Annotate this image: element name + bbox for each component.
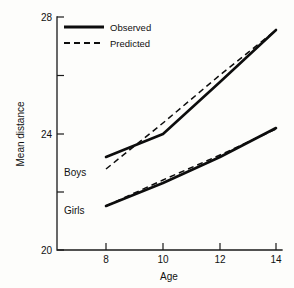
y-tick-label-20: 20 [41, 245, 53, 256]
legend: Observed Predicted [64, 22, 151, 49]
legend-label-predicted: Predicted [110, 38, 150, 49]
x-axis-title: Age [160, 271, 178, 282]
series-line-boys-observed [106, 30, 276, 157]
y-axis-tick-labels: 28 24 20 [41, 12, 53, 256]
series-annotation-girls: Girls [64, 205, 85, 216]
y-tick-label-28: 28 [41, 12, 53, 23]
x-axis-tick-labels: 8 10 12 14 [103, 254, 282, 265]
y-tick-label-24: 24 [41, 129, 53, 140]
x-tick-label-10: 10 [157, 254, 169, 265]
x-tick-label-8: 8 [103, 254, 109, 265]
line-chart-svg: 28 24 20 Mean distance 8 10 12 14 Age [0, 0, 294, 288]
legend-label-observed: Observed [110, 22, 151, 33]
chart-figure: 28 24 20 Mean distance 8 10 12 14 Age [0, 0, 294, 288]
x-axis-ticks [106, 243, 276, 250]
series-line-boys-predicted [106, 30, 276, 169]
series-annotation-boys: Boys [64, 167, 86, 178]
y-axis-ticks [57, 17, 64, 250]
x-tick-label-14: 14 [270, 254, 282, 265]
y-axis-title: Mean distance [15, 101, 26, 166]
x-tick-label-12: 12 [214, 254, 226, 265]
